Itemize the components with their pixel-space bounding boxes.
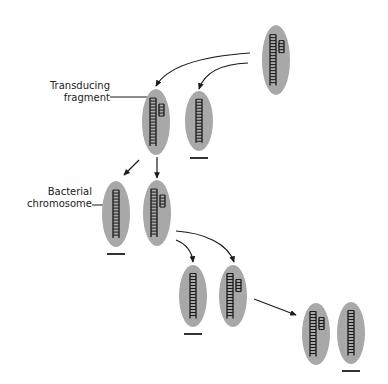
arrow-gen3-to-gen4 [254,299,296,315]
arrow-gen2-to-gen3-right [176,231,234,262]
cell-gen2-left [102,181,130,254]
label-line: Transducing [40,80,110,92]
cell-gen4-right [337,302,365,371]
cells [102,25,365,371]
cell-donor-top [262,25,290,95]
label-line: chromosome [20,198,92,210]
cell-gen1-left [142,89,170,155]
label-line: Bacterial [20,186,92,198]
cell-gen3-right [219,265,247,327]
cell-gen3-left [179,265,207,334]
cell-gen1-right [185,91,213,158]
cell-body [337,302,365,364]
arrows [124,53,296,315]
cell-gen2-right [143,180,171,246]
arrow-gen2-to-gen3-left [176,240,193,262]
label-line: fragment [40,92,110,104]
cell-body [185,91,213,151]
bacterial-chromosome-label: Bacterial chromosome [20,186,92,210]
arrow-donor-to-gen1-right [199,63,248,89]
transducing-fragment-label: Transducing fragment [40,80,110,104]
arrow-gen1-to-gen2-left [124,160,139,175]
cell-body [179,265,207,327]
cell-gen4-left [302,303,330,365]
